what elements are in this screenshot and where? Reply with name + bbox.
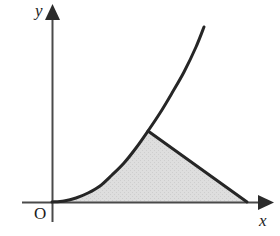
arrow-up-icon xyxy=(45,4,60,20)
figure-container: y x O xyxy=(0,0,280,236)
origin-label: O xyxy=(34,205,46,222)
y-axis-label: y xyxy=(35,2,43,19)
x-axis-label: x xyxy=(259,212,267,229)
geometry-figure xyxy=(0,0,280,236)
arrow-right-icon xyxy=(258,195,274,210)
shaded-region xyxy=(52,131,247,202)
